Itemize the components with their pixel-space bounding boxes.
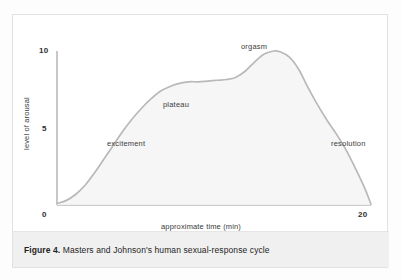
annotation-plateau: plateau — [163, 100, 189, 109]
chart-plot-area: 10 5 0 20 level of arousal approximate t… — [13, 15, 389, 230]
annotation-excitement: excitement — [107, 139, 145, 148]
x-tick-20: 20 — [358, 211, 367, 219]
page-root: 10 5 0 20 level of arousal approximate t… — [0, 0, 401, 280]
x-tick-0: 0 — [42, 211, 47, 219]
curve-fill-area — [57, 51, 371, 205]
figure-caption: Figure 4. Masters and Johnson's human se… — [13, 245, 270, 255]
x-axis-title: approximate time (min) — [13, 222, 389, 231]
y-tick-10: 10 — [39, 47, 48, 55]
figure-container: 10 5 0 20 level of arousal approximate t… — [12, 14, 388, 268]
figure-caption-body: Masters and Johnson's human sexual-respo… — [63, 245, 270, 255]
y-tick-5: 5 — [42, 125, 47, 133]
response-cycle-line-chart — [13, 15, 389, 230]
annotation-orgasm: orgasm — [241, 42, 267, 51]
figure-caption-band: Figure 4. Masters and Johnson's human se… — [13, 231, 389, 267]
y-axis-title: level of arousal — [22, 88, 31, 160]
annotation-resolution: resolution — [331, 139, 366, 148]
figure-caption-label: Figure 4. — [24, 245, 60, 255]
